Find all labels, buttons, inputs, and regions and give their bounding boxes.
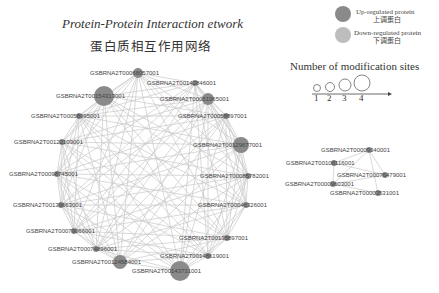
modification-sites-scale bbox=[300, 74, 430, 96]
protein-node-label: GSBRNA2T00108116001 bbox=[286, 160, 355, 167]
protein-node-label: GSBRNA2T00143731001 bbox=[132, 268, 201, 275]
protein-node-label: GSBRNA2T00085782001 bbox=[200, 173, 269, 180]
protein-node-label: GSBRNA2T00058995001 bbox=[31, 113, 100, 120]
site-count-1: 1 bbox=[314, 93, 319, 103]
protein-node-label: GSBRNA2T00124584001 bbox=[72, 259, 141, 266]
site-count-4: 4 bbox=[359, 93, 364, 103]
up-regulated-legend-dot bbox=[335, 6, 351, 22]
protein-node-label: GSBRNA2T00148619001 bbox=[160, 253, 229, 260]
protein-node-label: GSBRNA2T00079066001 bbox=[26, 228, 95, 235]
down-regulated-legend-dot bbox=[335, 27, 351, 43]
protein-node-label: GSBRNA2T00009603001 bbox=[285, 181, 354, 188]
protein-node-label: GSBRNA2T00142846001 bbox=[147, 80, 216, 87]
protein-node-label: GSBRNA2T00046326001 bbox=[198, 202, 267, 209]
site-count-2: 2 bbox=[327, 93, 332, 103]
protein-node-label: GSBRNA2T00076479001 bbox=[337, 172, 406, 179]
protein-node-label: GSBRNA2T00009340001 bbox=[321, 147, 390, 154]
protein-node-label: GSBRNA2T00154313001 bbox=[56, 93, 125, 100]
interaction-edge bbox=[79, 116, 241, 145]
protein-node-label: GSBRNA2T00068057001 bbox=[90, 70, 159, 77]
modification-sites-title: Number of modification sites bbox=[290, 60, 419, 72]
protein-node-label: GSBRNA2T00122109001 bbox=[14, 139, 83, 146]
protein-node-label: GSBRNA2T00135897001 bbox=[179, 235, 248, 242]
protein-node-label: GSBRNA2T00098745001 bbox=[9, 171, 78, 178]
interaction-edge bbox=[195, 83, 227, 238]
down-regulated-label-cn: 下调蛋白 bbox=[373, 37, 401, 45]
down-regulated-label-en: Down-regulated protein bbox=[354, 29, 421, 37]
protein-node-label: GSBRNA2T00058897001 bbox=[178, 113, 247, 120]
protein-node-label: GSBRNA2T00051965001 bbox=[160, 96, 229, 103]
interaction-edge bbox=[227, 145, 241, 238]
protein-node-label: GSBRNA2T00129677001 bbox=[193, 142, 262, 149]
up-regulated-label-cn: 上调蛋白 bbox=[373, 16, 401, 24]
protein-node-label: GSBRNA2T00074896001 bbox=[48, 246, 117, 253]
site-count-3: 3 bbox=[342, 93, 347, 103]
protein-node-label: GSBRNA2T00139663001 bbox=[13, 202, 82, 209]
protein-node-label: GSBRNA2T00003531001 bbox=[330, 190, 399, 197]
up-regulated-label-en: Up-regulated protein bbox=[356, 8, 415, 16]
